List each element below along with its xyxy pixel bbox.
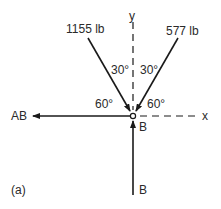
- right-force-label: 577 lb: [166, 25, 199, 37]
- right-angle-from-y: 30°: [140, 64, 158, 76]
- x-axis-label: x: [202, 110, 208, 122]
- right-angle-from-x: 60°: [147, 98, 165, 110]
- node-label: B: [139, 121, 147, 133]
- left-angle-from-x: 60°: [95, 98, 113, 110]
- panel-label: (a): [11, 184, 26, 196]
- y-axis-label: y: [129, 10, 135, 22]
- left-force-label: 1155 lb: [66, 23, 104, 35]
- node-circle: [130, 113, 135, 118]
- ab-force-label: AB: [11, 110, 27, 122]
- b-force-label: B: [139, 184, 147, 196]
- free-body-diagram: y x 1155 lb 577 lb 30° 30° 60° 60° AB B …: [0, 0, 221, 209]
- left-angle-from-y: 30°: [111, 64, 129, 76]
